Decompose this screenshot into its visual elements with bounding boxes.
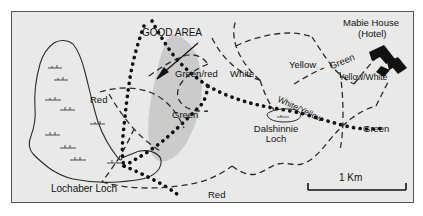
zone-label-yellow: Yellow [289, 60, 316, 70]
dashed-boundary-yellow-upper [236, 33, 312, 46]
zone-label-green-right: Green [363, 124, 389, 134]
dashed-boundary-yellowwhite-vert [340, 72, 343, 150]
map-figure: GOOD AREA Red Green/red Green White Yell… [0, 0, 423, 216]
zone-label-yellow-white: Yellow/White [339, 73, 387, 82]
zone-label-white: White [230, 69, 254, 79]
scale-bar-label: 1 Km [339, 173, 362, 184]
mabie-house-label-line1: Mabie House [343, 18, 399, 28]
dotted-route-west-vertical [122, 26, 144, 166]
scale-bar [308, 183, 406, 190]
dashed-boundary-green-diag [294, 68, 324, 84]
mabie-house-label-line2: (Hotel) [358, 29, 387, 39]
dashed-boundary-green-right-tail [376, 82, 388, 106]
dashed-boundary-south-east [102, 166, 232, 188]
good-area-label: GOOD AREA [142, 28, 202, 39]
zone-label-green-red: Green/red [175, 69, 218, 79]
dalshinnie-loch-hatch [277, 115, 289, 117]
good-area-polygon [148, 34, 202, 161]
zone-label-red-west: Red [90, 95, 107, 105]
zone-label-red-south: Red [208, 190, 225, 200]
dotted-route-south-leg [124, 166, 177, 194]
zone-label-green-left: Green [172, 110, 198, 120]
dashed-zone-boundaries [100, 20, 388, 188]
map-frame: GOOD AREA Red Green/red Green White Yell… [11, 11, 414, 203]
dalshinnie-loch-label-line2: Loch [245, 134, 307, 144]
lochaber-loch-label: Lochaber Loch [51, 184, 117, 195]
